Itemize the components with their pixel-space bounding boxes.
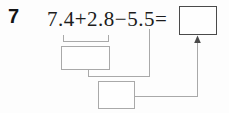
answer-box[interactable]: [179, 6, 217, 35]
arrowhead-up-icon: [194, 36, 201, 44]
step2-box[interactable]: [98, 81, 135, 109]
step1-box[interactable]: [61, 46, 110, 70]
worksheet-problem: 7 7.4+2.8−5.5=: [0, 0, 229, 113]
step2-to-answer-connector: [135, 41, 198, 97]
grouping-bracket: [63, 35, 108, 42]
